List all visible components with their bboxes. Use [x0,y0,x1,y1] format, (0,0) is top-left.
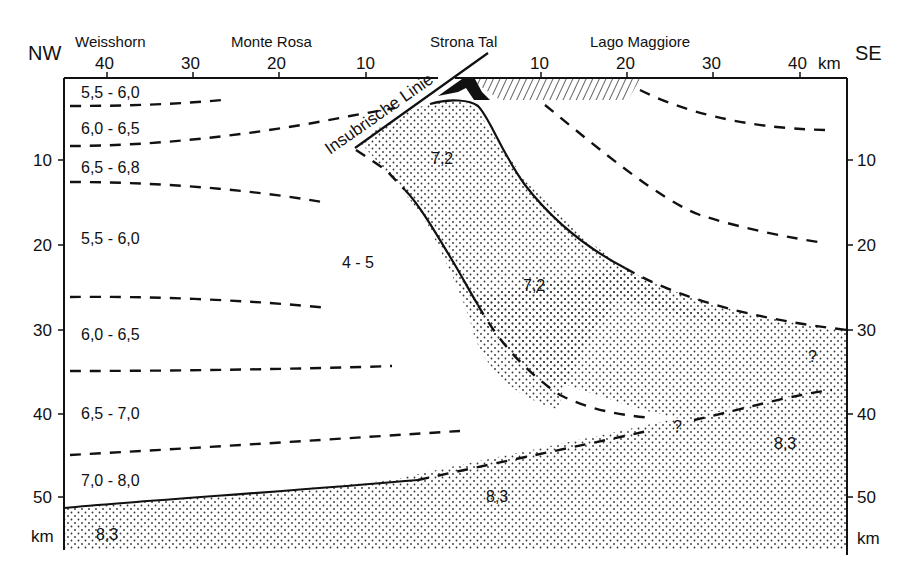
depth-right-10: 10 [857,151,876,170]
velocity-mantle-se: 8,3 [774,435,796,452]
top-tick-nw-40: 40 [95,54,114,73]
top-axis-unit: km [818,54,841,73]
surface-hatched-zone [470,79,640,100]
velocity-mantle-nw: 8,3 [96,526,118,543]
velocity-nw-layer-2: 6,0 - 6,5 [81,120,140,137]
depth-right-unit: km [857,529,880,548]
direction-se: SE [855,42,882,64]
depth-right-20: 20 [857,236,876,255]
velocity-ivrea-lower: 7,2 [523,277,545,294]
top-tick-se-30: 30 [702,54,721,73]
depth-left-40: 40 [33,405,52,424]
velocity-mantle-center: 8,3 [486,488,508,505]
depth-left-10: 10 [33,151,52,170]
velocity-ivrea-upper: 7,2 [431,150,453,167]
velocity-nw-layer-1: 5,5 - 6,0 [81,84,140,101]
mantle-region [64,388,847,550]
depth-left-50: 50 [33,488,52,507]
top-tick-nw-10: 10 [356,54,375,73]
boundary-nw-4 [70,297,328,308]
boundary-se-2 [545,105,825,243]
velocity-nw-layer-3: 6,5 - 6,8 [81,159,140,176]
depth-right-50: 50 [857,488,876,507]
boundary-nw-6 [70,431,460,455]
direction-nw: NW [28,42,61,64]
top-tick-se-10: 10 [530,54,549,73]
velocity-nw-layer-7: 7,0 - 8,0 [81,472,140,489]
place-weisshorn: Weisshorn [75,33,146,50]
boundary-se-1 [640,90,825,130]
top-tick-se-40: 40 [788,54,807,73]
uncertain-marker-2: ? [673,418,682,435]
place-monte-rosa: Monte Rosa [231,33,313,50]
place-strona-tal: Strona Tal [430,33,497,50]
boundary-nw-3 [70,182,322,202]
depth-right-40: 40 [857,405,876,424]
top-tick-nw-20: 20 [267,54,286,73]
depth-left-unit: km [31,527,54,546]
top-tick-nw-30: 30 [181,54,200,73]
uncertain-marker-1: ? [808,348,817,365]
depth-left-30: 30 [33,321,52,340]
cross-section-diagram: Weisshorn Monte Rosa Strona Tal Lago Mag… [0,0,918,575]
depth-right-30: 30 [857,321,876,340]
depth-left-20: 20 [33,236,52,255]
top-tick-se-20: 20 [616,54,635,73]
place-lago-maggiore: Lago Maggiore [590,33,690,50]
velocity-nw-layer-6: 6,5 - 7,0 [81,405,140,422]
velocity-nw-layer-5: 6,0 - 6,5 [81,326,140,343]
boundary-nw-5 [70,366,392,371]
velocity-nw-layer-4: 5,5 - 6,0 [81,230,140,247]
velocity-low-zone: 4 - 5 [342,254,374,271]
